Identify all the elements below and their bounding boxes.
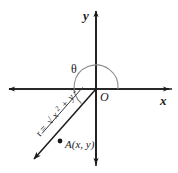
theta-label: θ [71, 62, 77, 76]
radius-expression: r = √ x 2 + y 2 [31, 85, 81, 139]
x-axis-label: x [159, 93, 167, 108]
diagram-canvas: y x O θ A(x, y) r = √ x 2 + y 2 [0, 0, 178, 173]
y-axis-label: y [81, 8, 89, 23]
radius-prefix: r = [33, 122, 49, 138]
point-a-marker [58, 139, 63, 144]
origin-label: O [100, 90, 109, 104]
point-a-label: A(x, y) [64, 138, 95, 151]
radius-expression-text: r = √ x 2 + y 2 [31, 85, 81, 139]
coordinate-diagram: y x O θ A(x, y) r = √ x 2 + y 2 [0, 0, 178, 173]
